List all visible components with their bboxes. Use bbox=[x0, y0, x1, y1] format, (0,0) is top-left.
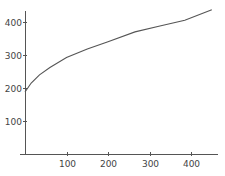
y-tick-label: 300 bbox=[5, 51, 22, 61]
y-tick-label: 100 bbox=[5, 117, 22, 127]
axes bbox=[20, 11, 218, 155]
line-chart: 100200300400 100200300400 bbox=[0, 0, 225, 176]
y-tick-label: 400 bbox=[5, 18, 22, 28]
y-ticks: 100200300400 bbox=[5, 18, 27, 127]
x-tick-label: 300 bbox=[142, 159, 159, 169]
series-group bbox=[25, 10, 212, 92]
x-tick-label: 400 bbox=[183, 159, 200, 169]
y-tick-label: 200 bbox=[5, 84, 22, 94]
x-tick-label: 200 bbox=[100, 159, 117, 169]
line-series bbox=[25, 10, 212, 92]
x-tick-label: 100 bbox=[59, 159, 76, 169]
